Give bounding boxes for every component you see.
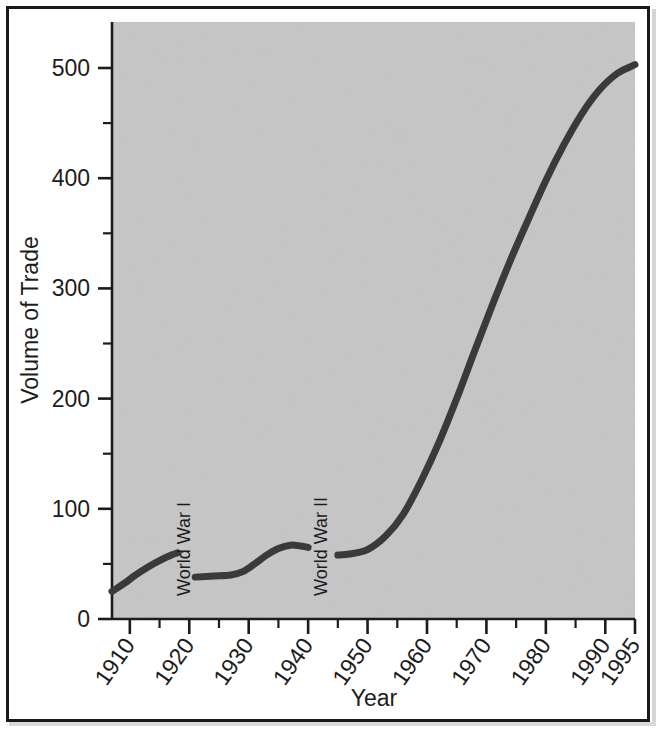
x-tick-label: 1970: [446, 633, 497, 690]
figure-root: 0100200300400500 19101920193019401950196…: [0, 0, 662, 730]
x-tick-label: 1940: [268, 633, 319, 690]
x-tick-label: 1960: [386, 633, 437, 690]
x-axis-title: Year: [351, 685, 398, 711]
line-chart: 0100200300400500 19101920193019401950196…: [0, 0, 662, 730]
y-axis-minor-ticks: [103, 123, 112, 564]
x-axis-major-ticks: [130, 619, 635, 634]
x-tick-label: 1980: [505, 633, 556, 690]
y-axis-tick-labels: 0100200300400500: [52, 55, 90, 632]
x-tick-label: 1920: [149, 633, 200, 690]
x-tick-label: 1910: [89, 633, 140, 690]
annotation-label: World War II: [311, 497, 331, 596]
series-line-postwar-boom: [338, 65, 635, 555]
y-tick-label: 400: [52, 165, 90, 191]
series-line-interwar: [195, 545, 308, 577]
y-tick-label: 100: [52, 496, 90, 522]
annotation-label: World War I: [174, 502, 194, 596]
series-line-pre-war-and-interwar: [112, 553, 177, 592]
x-tick-label: 1930: [208, 633, 259, 690]
x-tick-label: 1950: [327, 633, 378, 690]
y-tick-label: 300: [52, 275, 90, 301]
y-axis-title: Volume of Trade: [17, 236, 43, 404]
y-tick-label: 200: [52, 386, 90, 412]
y-tick-label: 0: [77, 606, 90, 632]
x-axis-tick-labels: 1910192019301940195019601970198019901995: [89, 633, 645, 690]
y-tick-label: 500: [52, 55, 90, 81]
